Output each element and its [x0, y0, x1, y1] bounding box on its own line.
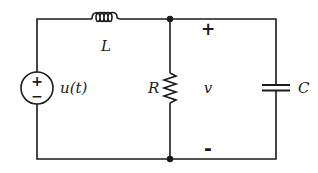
junction-bottom — [167, 156, 173, 162]
voltage-source: + − — [21, 72, 53, 104]
wire-left-top — [37, 19, 92, 72]
circuit-diagram: + − u(t) L R C + v - — [0, 0, 318, 173]
capacitor-label: C — [298, 79, 310, 97]
voltage-minus-sign: - — [204, 137, 212, 159]
voltage-label: v — [204, 79, 213, 97]
resistor-icon — [164, 73, 176, 103]
wire-top-right — [121, 19, 276, 85]
wire-right-bottom — [37, 90, 276, 159]
source-minus-sign: − — [31, 88, 43, 104]
voltage-plus-sign: + — [201, 19, 215, 39]
source-label: u(t) — [60, 79, 88, 97]
capacitor-icon — [262, 85, 290, 91]
junction-top — [167, 16, 173, 22]
inductor-icon — [92, 13, 121, 22]
resistor-label: R — [147, 79, 159, 97]
inductor-label: L — [100, 37, 111, 55]
source-plus-sign: + — [31, 73, 43, 89]
